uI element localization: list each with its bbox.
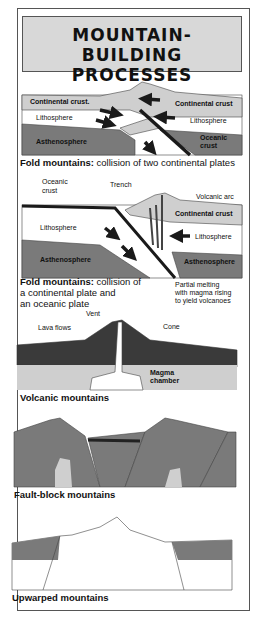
label: Continental crust. [30, 98, 90, 105]
label: Oceanic [42, 178, 68, 185]
caption-upwarped: Upwarped mountains [12, 592, 109, 603]
label: Continental crust [175, 210, 233, 217]
label: with magma rising [174, 289, 232, 297]
label: Lava flows [38, 324, 72, 331]
diagram-fault-block [14, 418, 236, 487]
label: crust [42, 187, 57, 194]
label: Magma [150, 369, 174, 377]
label: Continental crust [175, 100, 233, 107]
label: chamber [150, 377, 179, 384]
label: Trench [110, 181, 132, 188]
label: Asthenosphere [36, 138, 87, 146]
label: to yield volcanoes [175, 297, 231, 305]
label: Oceanic [200, 134, 227, 141]
diagram-continental-collision: Continental crust. Continental crust Lit… [22, 82, 242, 155]
caption-fault-block: Fault-block mountains [14, 489, 115, 500]
diagram-upwarped [12, 517, 232, 590]
label: Volcanic arc [196, 193, 234, 200]
label: crust [200, 142, 218, 149]
caption-fold-oceanic: Fold mountains: collision of a continent… [20, 276, 141, 309]
caption-volcanic: Volcanic mountains [20, 392, 109, 403]
label: Lithosphere [36, 114, 73, 122]
label: Cone [163, 323, 180, 330]
label: Asthenosphere [184, 258, 235, 266]
label: Lithosphere [195, 233, 232, 241]
label: Asthenosphere [40, 256, 91, 264]
caption-fold-continental: Fold mountains: collision of two contine… [20, 157, 235, 168]
label: Vent [86, 310, 100, 317]
label: Partial melting [175, 281, 219, 289]
diagram-volcanic: Vent Lava flows Cone Magma chamber [17, 310, 237, 390]
label: Lithosphere [40, 224, 77, 232]
label: Lithosphere [190, 117, 227, 125]
